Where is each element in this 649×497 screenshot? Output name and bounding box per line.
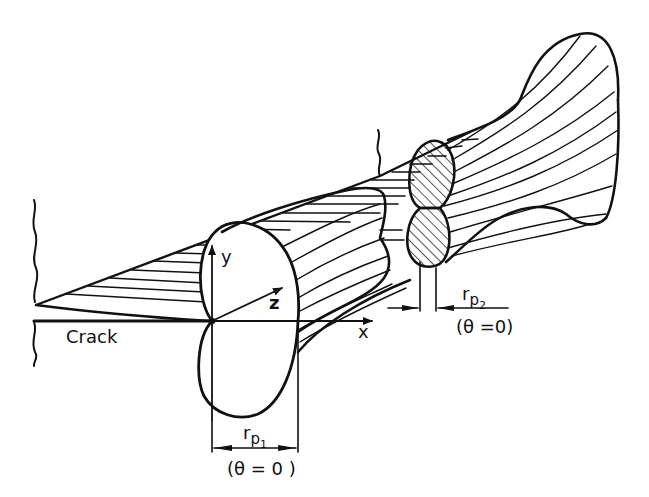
rp2-label: rp2 [462, 285, 486, 311]
rp1-condition: (θ = 0 ) [227, 460, 296, 478]
interior-zone-lower-lobe [407, 208, 449, 267]
rp2-condition: (θ =0) [456, 318, 513, 336]
crack-plane-bottom-edge [36, 305, 210, 321]
break-line-top [377, 130, 380, 176]
surface-zone-lower-lobe [199, 321, 298, 417]
rp1-arrow-left [214, 445, 232, 451]
rp2-arrow-left [402, 305, 418, 311]
crack-label: Crack [66, 328, 117, 346]
rp1-label: rp1 [243, 424, 267, 450]
origin-dot [209, 318, 215, 324]
rp2-arrow-right [438, 305, 454, 311]
rp1-p: p [250, 430, 260, 448]
rp2-p: p [469, 291, 479, 309]
rp1-arrow-right [278, 445, 296, 451]
diagram-drawing [0, 0, 649, 497]
tube-lower-edge [298, 280, 410, 352]
far-zone-streamlines [444, 36, 618, 256]
rp2-sub: 2 [479, 299, 486, 312]
surface-zone-upper-lobe [200, 222, 298, 321]
interior-zone-upper-lobe [409, 141, 454, 208]
z-axis-label: z [269, 294, 279, 312]
y-axis-label: y [221, 248, 232, 266]
break-line-left [33, 200, 37, 302]
crack-plastic-zone-diagram: Crack y z x rp1 (θ = 0 ) rp2 (θ =0) [0, 0, 649, 497]
break-line-left-lower [33, 322, 36, 366]
x-axis-label: x [358, 323, 369, 341]
far-zone-bottom-edge [446, 207, 606, 262]
rp1-sub: 1 [260, 438, 267, 451]
tube-right-edge [298, 196, 389, 332]
